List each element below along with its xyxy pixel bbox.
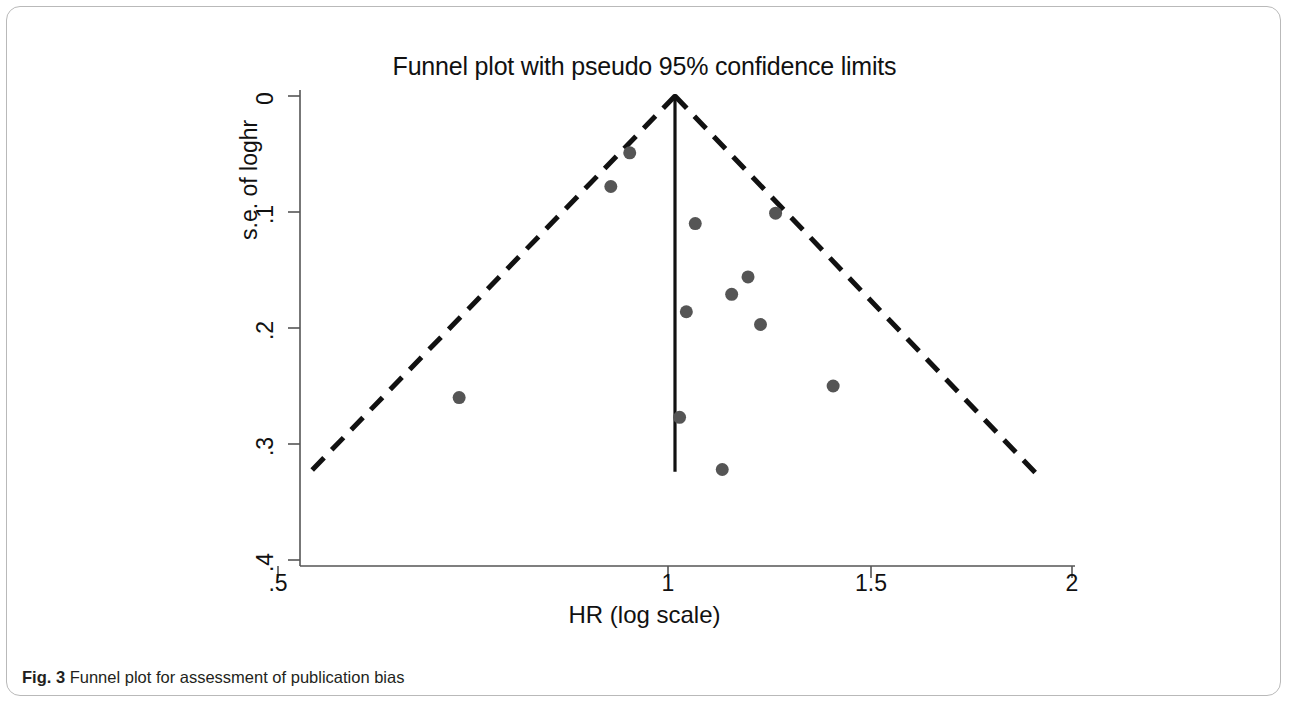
y-tick-label-2: .2 bbox=[252, 318, 279, 344]
figure-caption: Fig. 3 Funnel plot for assessment of pub… bbox=[22, 668, 404, 687]
data-point bbox=[716, 463, 729, 476]
data-point bbox=[673, 411, 686, 424]
pseudo-ci-left-limit bbox=[309, 96, 675, 473]
y-tick-label-0: 0 bbox=[252, 86, 279, 112]
x-tick-label-2: 1.5 bbox=[855, 570, 887, 597]
figure-caption-number: Fig. 3 bbox=[22, 668, 65, 686]
x-tick-label-1: 1 bbox=[662, 570, 675, 597]
data-point bbox=[623, 146, 636, 159]
data-points bbox=[453, 146, 840, 476]
data-point bbox=[689, 217, 702, 230]
data-point bbox=[453, 391, 466, 404]
y-axis-ticks bbox=[288, 96, 300, 560]
data-point bbox=[725, 288, 738, 301]
y-tick-label-3: .3 bbox=[252, 434, 279, 460]
data-point bbox=[680, 305, 693, 318]
pseudo-ci-right-limit bbox=[675, 96, 1036, 473]
x-tick-label-0: .5 bbox=[268, 570, 287, 597]
data-point bbox=[769, 207, 782, 220]
x-tick-label-3: 2 bbox=[1066, 570, 1079, 597]
data-point bbox=[604, 180, 617, 193]
y-axis-title: s.e. of loghr bbox=[236, 120, 263, 240]
x-axis-ticks bbox=[278, 566, 1072, 578]
data-point bbox=[827, 380, 840, 393]
x-axis-title: HR (log scale) bbox=[0, 601, 1289, 629]
data-point bbox=[754, 318, 767, 331]
data-point bbox=[742, 270, 755, 283]
funnel-plot: Funnel plot with pseudo 95% confidence l… bbox=[0, 0, 1289, 712]
figure-caption-text: Funnel plot for assessment of publicatio… bbox=[65, 668, 404, 686]
